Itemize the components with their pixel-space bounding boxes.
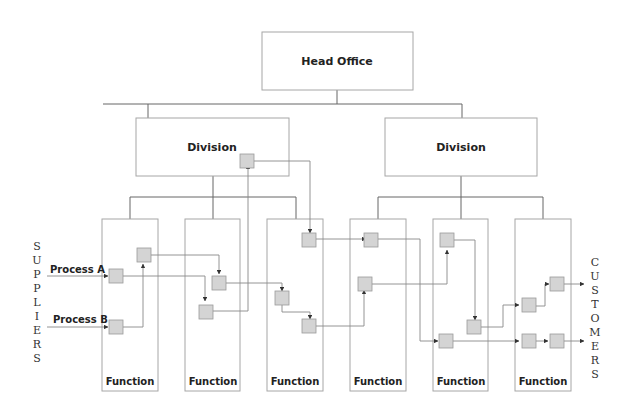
node bbox=[212, 276, 226, 290]
node bbox=[275, 291, 289, 305]
svg-text:O: O bbox=[590, 312, 599, 325]
process-nodes bbox=[109, 154, 564, 348]
division-label-right: Division bbox=[436, 141, 486, 154]
node bbox=[240, 154, 254, 168]
node bbox=[439, 334, 453, 348]
node bbox=[302, 233, 316, 247]
svg-text:S: S bbox=[33, 240, 41, 253]
function-label-5: Function bbox=[437, 376, 486, 387]
svg-text:U: U bbox=[32, 254, 41, 267]
svg-text:C: C bbox=[591, 256, 599, 269]
process-a-label: Process A bbox=[50, 264, 105, 275]
node bbox=[440, 233, 454, 247]
function-label-4: Function bbox=[354, 376, 403, 387]
function-label-6: Function bbox=[519, 376, 568, 387]
svg-text:S: S bbox=[33, 352, 41, 365]
node bbox=[364, 233, 378, 247]
head-office-label: Head Office bbox=[301, 55, 372, 68]
function-box-1 bbox=[102, 219, 158, 391]
function-label-3: Function bbox=[271, 376, 320, 387]
svg-text:U: U bbox=[590, 270, 599, 283]
svg-text:T: T bbox=[591, 298, 599, 311]
node bbox=[358, 277, 372, 291]
svg-text:S: S bbox=[591, 368, 599, 381]
org-process-diagram: Head Office Division Division Function F… bbox=[0, 0, 631, 415]
node bbox=[137, 248, 151, 262]
node bbox=[199, 305, 213, 319]
process-b-label: Process B bbox=[53, 314, 108, 325]
svg-text:R: R bbox=[33, 338, 42, 351]
node bbox=[109, 269, 123, 283]
svg-text:E: E bbox=[591, 340, 599, 353]
svg-text:L: L bbox=[33, 296, 41, 309]
svg-text:E: E bbox=[33, 324, 41, 337]
svg-text:S: S bbox=[591, 284, 599, 297]
function-label-2: Function bbox=[189, 376, 238, 387]
division-label-left: Division bbox=[187, 141, 237, 154]
svg-text:P: P bbox=[33, 268, 41, 281]
svg-text:M: M bbox=[589, 326, 600, 339]
suppliers-label: S U P P L I E R S bbox=[32, 240, 41, 365]
node bbox=[467, 320, 481, 334]
node bbox=[302, 319, 316, 333]
node bbox=[522, 298, 536, 312]
function-label-1: Function bbox=[106, 376, 155, 387]
node bbox=[109, 320, 123, 334]
customers-label: C U S T O M E R S bbox=[589, 256, 600, 381]
node bbox=[550, 334, 564, 348]
svg-text:I: I bbox=[35, 310, 39, 323]
node bbox=[522, 334, 536, 348]
node bbox=[550, 277, 564, 291]
svg-text:R: R bbox=[591, 354, 600, 367]
svg-text:P: P bbox=[33, 282, 41, 295]
